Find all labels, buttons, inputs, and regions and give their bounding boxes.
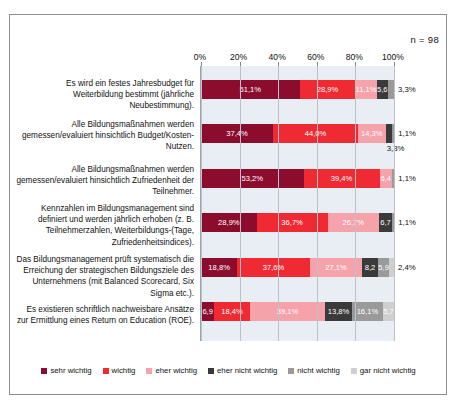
legend-item[interactable]: eher wichtig <box>146 366 197 375</box>
x-tick-100: 100% <box>382 52 404 62</box>
bar-segment-value: 6,7 <box>380 219 391 227</box>
bar-segment: 37,4% <box>201 124 273 143</box>
bar-segment-value-outside: 3,3% <box>398 80 416 99</box>
bar-segment: 6,7 <box>379 213 392 232</box>
chart-legend: sehr wichtigwichtigeher wichtigeher nich… <box>0 366 457 375</box>
legend-swatch-icon <box>146 368 152 374</box>
bar-row: 6,918,4%39,1%13,8%16,1%5,7 <box>201 302 394 321</box>
x-tick-40: 40% <box>269 52 286 62</box>
bar-segment-value: 14,3% <box>361 130 383 138</box>
legend-swatch-icon <box>103 368 109 374</box>
bar-segment-value: 51,1% <box>240 86 262 94</box>
axis-tick-80 <box>355 62 356 66</box>
bar-row: 37,4%44,0%14,3% <box>201 124 394 143</box>
gridline-20 <box>240 66 241 341</box>
bar-segment-value: 44,0% <box>305 130 327 138</box>
bar-segment-value: 6,9 <box>202 308 213 316</box>
legend-label: wichtig <box>112 366 136 375</box>
bar-segment: 6,4 <box>380 169 392 188</box>
bar-segment-value: 8,2 <box>365 264 376 272</box>
bar-segment-value: 28,9% <box>317 86 339 94</box>
bar-segment: 39,4% <box>304 169 380 188</box>
legend-swatch-icon <box>288 368 294 374</box>
bar-segment-value: 6,4 <box>380 175 391 183</box>
bar-segment: 51,1% <box>201 80 300 99</box>
bar-segment: 53,2% <box>201 169 304 188</box>
category-label: Das Bildungsmanagement prüft systematisc… <box>14 254 194 299</box>
gridline-80 <box>355 66 356 341</box>
category-label: Alle Bildungsmaßnahmen werden gemessen/e… <box>14 164 194 198</box>
bar-segment: 16,1% <box>352 302 383 321</box>
bar-segment: 18,8% <box>201 258 237 277</box>
legend-item[interactable]: gar nicht wichtig <box>351 366 416 375</box>
legend-item[interactable]: eher nicht wichtig <box>208 366 277 375</box>
bar-segment-value: 5,7 <box>383 308 394 316</box>
bar-segment: 37,6% <box>237 258 310 277</box>
bar-segment: 5,6 <box>377 80 388 99</box>
legend-swatch-icon <box>351 368 357 374</box>
category-label: Es existieren schriftlich nachweisbare A… <box>14 304 194 326</box>
category-label: Alle Bildungsmaßnahmen werden gemessen/e… <box>14 119 194 153</box>
bar-segment-value-outside: 1,1% <box>398 169 416 188</box>
legend-swatch-icon <box>208 368 214 374</box>
bar-segment-value: 5,9 <box>378 264 389 272</box>
x-tick-80: 80% <box>346 52 363 62</box>
axis-tick-100 <box>394 62 395 66</box>
bar-segment: 13,8% <box>325 302 352 321</box>
bar-segment-value: 13,8% <box>328 308 350 316</box>
legend-item[interactable]: nicht wichtig <box>288 366 339 375</box>
bar-row: 51,1%28,9%11,1%5,6 <box>201 80 394 99</box>
x-axis-tick-labels: 0%20%40%60%80%100% <box>200 52 393 64</box>
bar-segment: 26,7% <box>328 213 379 232</box>
bar-segment-value: 28,9% <box>218 219 240 227</box>
bar-segment-value: 16,1% <box>357 308 379 316</box>
bar-segment: 5,9 <box>378 258 389 277</box>
x-tick-20: 20% <box>230 52 247 62</box>
bar-segment: 8,2 <box>362 258 378 277</box>
axis-tick-40 <box>278 62 279 66</box>
bar-row: 28,9%36,7%26,7%6,7 <box>201 213 394 232</box>
bar-segment: 44,0% <box>273 124 358 143</box>
bar-segment-value-below: 3,3% <box>387 144 405 153</box>
bar-segment-value-outside: 2,4% <box>398 258 416 277</box>
legend-label: gar nicht wichtig <box>360 366 416 375</box>
bar-segment-value-outside: 1,1% <box>398 213 416 232</box>
x-tick-60: 60% <box>307 52 324 62</box>
bar-segment-value: 36,7% <box>281 219 303 227</box>
bar-segment: 28,9% <box>300 80 356 99</box>
bar-segment: 28,9% <box>201 213 257 232</box>
category-label: Es wird ein festes Jahresbudget für Weit… <box>14 78 194 112</box>
axis-tick-0 <box>201 62 202 66</box>
bar-segment-value: 26,7% <box>342 219 364 227</box>
bar-segment: 6,9 <box>201 302 214 321</box>
legend-item[interactable]: sehr wichtig <box>41 366 91 375</box>
bar-row: 53,2%39,4%6,4 <box>201 169 394 188</box>
gridline-0 <box>201 66 202 341</box>
bar-segment-value: 27,1% <box>325 264 347 272</box>
axis-tick-60 <box>317 62 318 66</box>
bar-segment-value: 11,1% <box>356 86 377 94</box>
legend-label: eher nicht wichtig <box>217 366 277 375</box>
legend-label: nicht wichtig <box>297 366 339 375</box>
x-tick-0: 0% <box>194 52 206 62</box>
bar-segment-value-outside: 1,1% <box>398 124 416 143</box>
legend-label: eher wichtig <box>155 366 197 375</box>
plot-area: 3,3%51,1%28,9%11,1%5,63,3%1,1%37,4%44,0%… <box>200 66 395 341</box>
chart-page: n = 98 0%20%40%60%80%100% 3,3%51,1%28,9%… <box>0 0 457 408</box>
bar-segment: 18,4% <box>214 302 250 321</box>
bar-segment-value: 39,1% <box>277 308 299 316</box>
category-label: Kennzahlen im Bildungsmanagement sind de… <box>14 203 194 248</box>
bar-segment-value: 53,2% <box>242 175 264 183</box>
axis-tick-20 <box>240 62 241 66</box>
legend-item[interactable]: wichtig <box>103 366 136 375</box>
bar-row: 18,8%37,6%27,1%8,25,9 <box>201 258 394 277</box>
category-labels: Es wird ein festes Jahresbudget für Weit… <box>14 66 194 341</box>
bar-segment: 14,3% <box>358 124 386 143</box>
bar-segment-value: 39,4% <box>331 175 353 183</box>
legend-label: sehr wichtig <box>50 366 91 375</box>
bar-segment: 5,7 <box>383 302 394 321</box>
sample-size-note: n = 98 <box>411 34 439 45</box>
legend-swatch-icon <box>41 368 47 374</box>
bar-segment-value: 18,8% <box>208 264 230 272</box>
bar-segment-value: 37,6% <box>263 264 285 272</box>
